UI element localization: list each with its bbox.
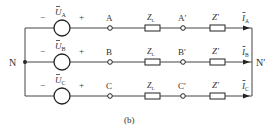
- source-a-plus: +: [79, 12, 84, 22]
- current-arrow-a-icon: [243, 26, 250, 31]
- load-impedance-b-label: Z′: [212, 46, 220, 56]
- terminal-a-prime-label: A′: [178, 13, 186, 23]
- phase-a-branch: − + UA A ZL A′ Z′ IA: [25, 7, 252, 37]
- phase-b-branch: − + UB B ZL B′ Z′ IB: [25, 41, 252, 71]
- line-impedance-c-label: ZL: [147, 81, 155, 91]
- terminal-a-prime: [181, 26, 186, 31]
- source-c-minus: −: [40, 80, 45, 90]
- terminal-b-label: B: [106, 47, 112, 57]
- terminal-a: [108, 26, 113, 31]
- current-c-label: IC: [241, 81, 249, 92]
- terminal-a-label: A: [106, 13, 113, 23]
- terminal-b-prime-label: B′: [178, 47, 186, 57]
- three-phase-circuit-diagram: N N′ − + UA A ZL A′ Z′ IA − + UB: [0, 0, 273, 135]
- load-impedance-b: [210, 59, 225, 65]
- source-b-minus: −: [40, 46, 45, 56]
- voltage-source-a-icon: [54, 20, 70, 36]
- voltage-source-b-icon: [54, 54, 70, 70]
- figure-caption: (b): [124, 115, 135, 125]
- source-a-minus: −: [40, 12, 45, 22]
- terminal-c-prime-label: C′: [178, 81, 186, 91]
- source-c-label: UC: [55, 75, 66, 86]
- current-arrow-b-icon: [243, 60, 250, 65]
- source-a-label: UA: [55, 7, 67, 18]
- line-impedance-a-label: ZL: [147, 13, 155, 23]
- terminal-b: [108, 60, 113, 65]
- current-arrow-c-icon: [243, 94, 250, 99]
- terminal-b-prime: [181, 60, 186, 65]
- terminal-c-label: C: [106, 81, 112, 91]
- line-impedance-b-label: ZL: [147, 47, 155, 57]
- voltage-source-c-icon: [54, 88, 70, 104]
- current-b-label: IB: [241, 47, 249, 58]
- load-impedance-a: [210, 25, 225, 31]
- load-impedance-c-label: Z′: [212, 80, 220, 90]
- node-n-label: N: [9, 57, 16, 68]
- source-b-label: UB: [55, 41, 66, 52]
- load-impedance-a-label: Z′: [212, 12, 220, 22]
- current-a-label: IA: [241, 13, 249, 24]
- line-impedance-a: [145, 25, 160, 31]
- source-b-plus: +: [79, 46, 84, 56]
- terminal-c-prime: [181, 94, 186, 99]
- source-c-plus: +: [79, 80, 84, 90]
- line-impedance-b: [145, 59, 160, 65]
- line-impedance-c: [145, 93, 160, 99]
- phase-c-branch: − + UC C ZL C′ Z′ IC: [25, 75, 252, 105]
- load-impedance-c: [210, 93, 225, 99]
- terminal-c: [108, 94, 113, 99]
- node-n-prime-label: N′: [256, 57, 265, 68]
